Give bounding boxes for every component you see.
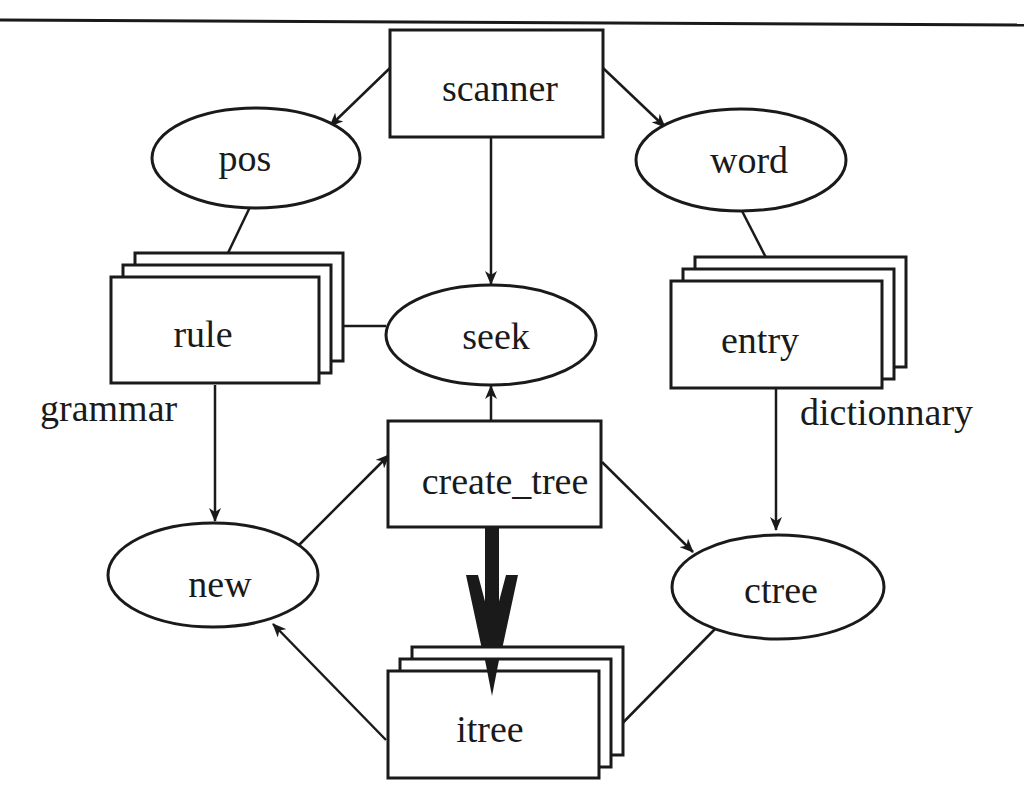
top-rule-line [0, 20, 1024, 25]
node-pos-label: pos [219, 137, 272, 179]
node-itree-label: itree [456, 708, 524, 750]
node-rule[interactable]: rule [111, 253, 343, 383]
node-itree[interactable]: itree [388, 647, 623, 778]
edge-scanner-word [603, 68, 665, 127]
edge-createtree-ctree [602, 462, 693, 552]
node-word[interactable]: word [636, 109, 846, 211]
node-ctree[interactable]: ctree [672, 535, 884, 639]
node-create-tree-label: create_tree [422, 460, 589, 502]
annotation-grammar: grammar [40, 387, 178, 429]
node-seek[interactable]: seek [386, 285, 596, 385]
node-entry[interactable]: entry [671, 257, 906, 388]
edge-new-createtree [296, 455, 389, 548]
edge-itree-new [273, 624, 386, 740]
node-word-label: word [710, 139, 788, 181]
node-entry-label: entry [721, 319, 799, 361]
node-pos[interactable]: pos [152, 108, 360, 208]
node-new-label: new [188, 563, 252, 605]
node-scanner-label: scanner [442, 67, 558, 109]
edge-scanner-pos [330, 68, 390, 126]
annotation-dictionnary: dictionnary [800, 391, 973, 433]
node-rule-label: rule [173, 313, 232, 355]
node-scanner[interactable]: scanner [390, 30, 603, 137]
node-create-tree[interactable]: create_tree [388, 421, 601, 527]
diagram-canvas: scanner pos word rule seek entry grammar… [0, 0, 1024, 812]
node-new[interactable]: new [108, 523, 318, 627]
node-seek-label: seek [462, 315, 530, 357]
node-ctree-label: ctree [744, 569, 818, 611]
